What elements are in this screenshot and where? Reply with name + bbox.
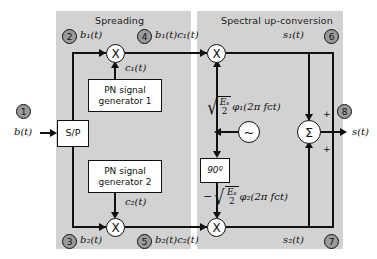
node-marker-6: 6 xyxy=(324,29,339,44)
carrier-lower-denominator: 2 xyxy=(229,197,235,206)
node-marker-8: 8 xyxy=(337,104,352,119)
pn2-label-line2: generator 2 xyxy=(98,177,151,187)
sqrt-icon: √ xyxy=(207,97,217,118)
node-marker-7: 7 xyxy=(324,234,339,249)
arrowhead-b2-to-mult2 xyxy=(99,223,106,231)
signal-label-branch-2: b₂(t) xyxy=(80,234,102,245)
sqrt-icon: √ xyxy=(214,187,224,208)
signal-label-spread-2: b₂(t)c₂(t) xyxy=(155,234,199,245)
multiplier-upper-spreading[interactable]: X xyxy=(106,44,125,63)
wire-sp-lower-vertical xyxy=(72,146,74,227)
signal-label-modulated-1: s₁(t) xyxy=(283,29,304,40)
summer[interactable]: Σ xyxy=(297,120,321,144)
wire-s2-right-rail xyxy=(332,52,334,228)
panel-title-spreading: Spreading xyxy=(95,15,144,26)
arrowhead-carrier-to-phase xyxy=(213,151,221,158)
multiplier-symbol: X xyxy=(111,47,119,61)
block-serial-to-parallel[interactable]: S/P xyxy=(57,120,89,147)
pn1-label-line1: PN signal xyxy=(104,85,146,95)
wire-mult1-to-mult3 xyxy=(125,52,207,54)
arrowhead-spread1-to-mult3 xyxy=(200,49,207,57)
block-90-degree-phase-shifter[interactable]: 90º xyxy=(200,158,230,183)
wire-mult2-to-mult4 xyxy=(125,226,207,228)
carrier-lower-function: φ₂(2π fᴄt) xyxy=(240,191,288,202)
node-marker-2: 2 xyxy=(62,29,77,44)
oscillator[interactable]: ~ xyxy=(238,121,260,143)
carrier-upper-function: φ₁(2π fᴄt) xyxy=(232,101,280,112)
signal-label-spread-1: b₁(t)c₁(t) xyxy=(155,29,199,40)
pn2-label-line1: PN signal xyxy=(104,166,146,176)
multiplier-symbol: X xyxy=(212,47,220,61)
signal-label-modulated-2: s₂(t) xyxy=(283,234,304,245)
node-marker-4: 4 xyxy=(137,29,152,44)
phase-shifter-label: 90º xyxy=(207,165,223,175)
multiplier-upper-upconversion[interactable]: X xyxy=(207,44,226,63)
pn1-label-line2: generator 1 xyxy=(98,96,151,106)
multiplier-symbol: X xyxy=(212,221,220,235)
carrier-upper-radical: √ Eₛ 2 xyxy=(206,96,231,117)
block-diagram: Spreading Spectral up-conversion xyxy=(0,0,377,259)
summer-plus-sign-bottom: + xyxy=(323,144,331,154)
node-marker-5: 5 xyxy=(137,234,152,249)
block-pn-generator-2[interactable]: PN signal generator 2 xyxy=(88,160,162,193)
wire-sp-upper-vertical xyxy=(72,53,74,121)
wire-s2-to-summer-horizontal xyxy=(308,226,334,228)
multiplier-lower-spreading[interactable]: X xyxy=(106,218,125,237)
summer-plus-sign-top: + xyxy=(323,109,331,119)
arrowhead-input-to-sp xyxy=(50,129,57,137)
panel-divider xyxy=(191,11,197,249)
carrier-expression-upper: √ Eₛ 2 φ₁(2π fᴄt) xyxy=(205,96,281,117)
signal-label-output: s(t) xyxy=(352,126,369,137)
signal-label-branch-1: b₁(t) xyxy=(80,29,102,40)
arrowhead-summer-to-output xyxy=(340,128,347,136)
carrier-lower-sign: − xyxy=(203,190,212,203)
wire-mult3-to-corner xyxy=(226,52,333,54)
arrowhead-b1-to-mult1 xyxy=(99,49,106,57)
arrowhead-spread2-to-mult4 xyxy=(200,223,207,231)
panel-title-spectral-up-conversion: Spectral up-conversion xyxy=(221,15,333,26)
carrier-expression-lower: − √ Eₛ 2 φ₂(2π fᴄt) xyxy=(203,186,288,207)
multiplier-lower-upconversion[interactable]: X xyxy=(207,218,226,237)
signal-label-code-1: c₁(t) xyxy=(125,62,146,73)
signal-label-input: b(t) xyxy=(14,126,32,137)
carrier-lower-fraction: Eₛ 2 xyxy=(225,186,239,207)
multiplier-symbol: X xyxy=(111,221,119,235)
carrier-upper-fraction: Eₛ 2 xyxy=(218,96,232,117)
block-pn-generator-1[interactable]: PN signal generator 1 xyxy=(88,79,162,112)
signal-label-code-2: c₂(t) xyxy=(125,196,146,207)
oscillator-symbol: ~ xyxy=(244,125,255,140)
carrier-lower-radical: √ Eₛ 2 xyxy=(213,186,238,207)
summer-symbol: Σ xyxy=(305,125,313,140)
carrier-upper-denominator: 2 xyxy=(222,107,228,116)
node-marker-1: 1 xyxy=(16,104,31,119)
node-marker-3: 3 xyxy=(62,234,77,249)
wire-s2-up-to-summer xyxy=(308,144,310,228)
wire-s1-down-to-summer xyxy=(308,52,310,120)
block-sp-label: S/P xyxy=(66,128,81,139)
